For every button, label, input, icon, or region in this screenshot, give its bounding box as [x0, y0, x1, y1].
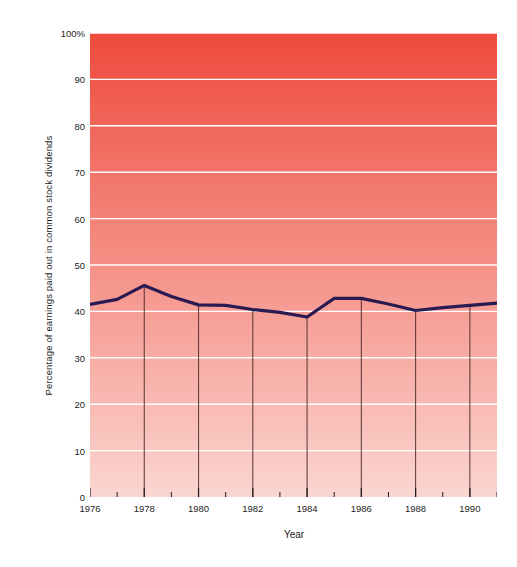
- x-tick-label-1978: 1978: [134, 503, 155, 514]
- x-tick-label-1976: 1976: [79, 503, 100, 514]
- x-tick-label-1986: 1986: [351, 503, 372, 514]
- x-axis-title: Year: [90, 529, 498, 540]
- x-tick-label-1980: 1980: [188, 503, 209, 514]
- x-tick-label-1990: 1990: [459, 503, 480, 514]
- x-tick-label-1984: 1984: [296, 503, 317, 514]
- x-tick-label-1988: 1988: [405, 503, 426, 514]
- x-axis-tick-labels: 19761978198019821984198619881990: [0, 0, 517, 567]
- x-tick-label-1982: 1982: [242, 503, 263, 514]
- chart-figure: Percentage of earnings paid out in commo…: [0, 0, 517, 567]
